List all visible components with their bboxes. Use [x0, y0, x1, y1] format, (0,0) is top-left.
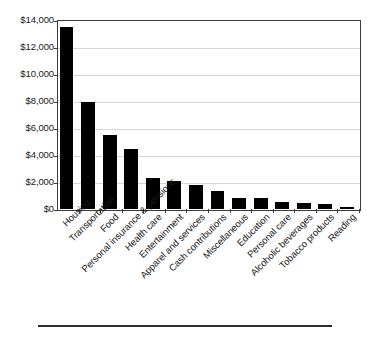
bar-slot[interactable] [208, 20, 230, 209]
bar[interactable] [232, 198, 246, 209]
bars-layer [57, 20, 359, 209]
y-axis-tick-label: $8,000 [26, 96, 54, 106]
bar[interactable] [211, 191, 225, 209]
bar[interactable] [81, 102, 95, 209]
bottom-rule [38, 325, 332, 327]
bar[interactable] [60, 27, 74, 209]
bar[interactable] [297, 203, 311, 209]
y-axis-tick-label: $14,000 [20, 15, 54, 25]
x-axis-tick [359, 209, 360, 213]
y-axis-tick-label: $0 [44, 204, 54, 214]
bar-slot[interactable] [186, 20, 208, 209]
bar-slot[interactable] [143, 20, 165, 209]
bar-slot[interactable] [79, 20, 101, 209]
bar-slot[interactable] [251, 20, 273, 209]
y-axis-tick-label: $6,000 [26, 123, 54, 133]
bar-slot[interactable] [230, 20, 252, 209]
bar[interactable] [254, 198, 268, 209]
y-axis-tick-label: $4,000 [26, 150, 54, 160]
bar-slot[interactable] [337, 20, 359, 209]
bar[interactable] [124, 149, 138, 209]
bar[interactable] [189, 185, 203, 209]
x-axis-category-label: Housing [61, 212, 77, 228]
bar-slot[interactable] [273, 20, 295, 209]
bar-chart-figure: $0$2,000$4,000$6,000$8,000$10,000$12,000… [0, 0, 367, 338]
bar-slot[interactable] [122, 20, 144, 209]
bar-slot[interactable] [294, 20, 316, 209]
bar-slot[interactable] [100, 20, 122, 209]
y-axis-tick-label: $12,000 [20, 42, 54, 52]
bar-slot[interactable] [316, 20, 338, 209]
y-axis-tick-label: $2,000 [26, 177, 54, 187]
bar[interactable] [318, 204, 332, 209]
y-axis-tick-label: $10,000 [20, 69, 54, 79]
bar-slot[interactable] [57, 20, 79, 209]
x-axis-labels: HousingTransportationFoodPersonal insura… [57, 212, 359, 322]
y-axis-tick [54, 210, 58, 211]
bar[interactable] [340, 207, 354, 209]
bar[interactable] [275, 202, 289, 209]
